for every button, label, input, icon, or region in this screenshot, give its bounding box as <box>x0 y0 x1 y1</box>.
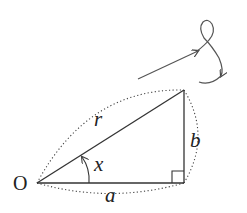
opposite-label: b <box>190 128 201 152</box>
adjacent-label: a <box>105 183 116 207</box>
angle-arc-arrow-icon <box>82 157 89 183</box>
hypotenuse-line <box>37 90 184 183</box>
origin-label: O <box>13 172 27 194</box>
hypotenuse-label: r <box>94 107 103 131</box>
triangle-diagram: O r x b a <box>0 0 247 213</box>
right-angle-marker <box>172 171 184 183</box>
rotation-arrow-icon <box>138 20 222 83</box>
angle-label: x <box>93 152 104 176</box>
